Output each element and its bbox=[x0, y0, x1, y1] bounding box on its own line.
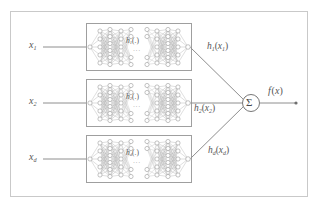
subnetwork-ellipsis-d: ··· bbox=[133, 160, 141, 166]
subnetwork-label-2: h2(.) bbox=[126, 93, 139, 101]
input-label-xd: xd bbox=[29, 152, 37, 162]
input-label-x2: x2 bbox=[29, 96, 37, 106]
subnetwork-label-1: h1(.) bbox=[126, 37, 139, 45]
edge-label-hdxd: hd(xd) bbox=[208, 146, 229, 156]
output-label-fx: f (x) bbox=[268, 86, 283, 96]
input-label-x1: x1 bbox=[29, 40, 37, 50]
edge-label-h2x2: h2(x2) bbox=[194, 104, 215, 114]
summation-symbol: Σ bbox=[246, 97, 252, 108]
figure-root: x1 x2 xd h1(.) ··· h2(.) ··· hd(.) ··· h… bbox=[0, 0, 318, 208]
edge-label-h1x1: h1(x1) bbox=[207, 42, 228, 52]
subnetwork-ellipsis-2: ··· bbox=[133, 104, 141, 110]
subnetwork-ellipsis-1: ··· bbox=[133, 48, 141, 54]
subnetwork-label-d: hd(.) bbox=[126, 149, 139, 157]
output-terminal-dot bbox=[294, 101, 297, 104]
diagram-canvas bbox=[0, 0, 318, 208]
